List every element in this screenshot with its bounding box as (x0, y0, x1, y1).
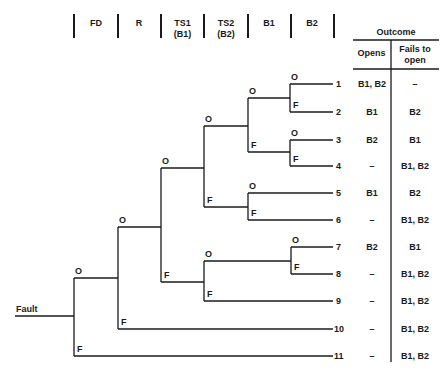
outcome-opens: B2 (350, 136, 394, 145)
outcome-number: 9 (336, 297, 341, 306)
branch-fail-label: F (207, 290, 213, 299)
branch-fail-label: F (293, 155, 299, 164)
outcome-fails: B1 (393, 136, 437, 145)
outcome-fails: B2 (393, 108, 437, 117)
outcome-opens: – (350, 325, 394, 334)
branch-open-label: O (119, 216, 126, 225)
branch-open-label: O (291, 73, 298, 82)
branch-fail-label: F (251, 209, 257, 218)
outcome-opens: B1 (350, 189, 394, 198)
outcome-number: 6 (336, 216, 341, 225)
initiating-event-label: Fault (16, 305, 38, 314)
outcome-fails: B1, B2 (393, 216, 437, 225)
outcome-number: 4 (336, 162, 341, 171)
outcome-fails: B1, B2 (393, 162, 437, 171)
branch-open-label: O (292, 236, 299, 245)
branch-open-label: O (162, 157, 169, 166)
outcome-opens: – (350, 162, 394, 171)
outcome-fails: B1 (393, 243, 437, 252)
branch-open-label: O (205, 115, 212, 124)
outcome-opens: – (350, 352, 394, 361)
outcome-opens: B1, B2 (350, 80, 394, 89)
outcome-number: 11 (334, 352, 344, 361)
outcome-fails: B2 (393, 189, 437, 198)
branch-fail-label: F (164, 271, 170, 280)
branch-open-label: O (249, 182, 256, 191)
outcome-fails: B1, B2 (393, 352, 437, 361)
outcome-fails: – (393, 80, 437, 89)
outcome-fails: B1, B2 (393, 325, 437, 334)
outcome-number: 5 (336, 189, 341, 198)
outcome-number: 1 (336, 80, 341, 89)
outcome-opens: B1 (350, 108, 394, 117)
outcome-number: 7 (336, 243, 341, 252)
branch-open-label: O (249, 87, 256, 96)
branch-fail-label: F (77, 345, 83, 354)
branch-fail-label: F (293, 101, 299, 110)
branch-fail-label: F (121, 318, 127, 327)
outcome-fails: B1, B2 (393, 297, 437, 306)
outcome-opens: B2 (350, 243, 394, 252)
outcome-opens: – (350, 216, 394, 225)
outcome-number: 3 (336, 136, 341, 145)
branch-open-label: O (75, 267, 82, 276)
event-tree-diagram: FD R TS1 (B1) TS2 (B2) B1 B2 Outcome Ope… (0, 0, 443, 377)
branch-fail-label: F (207, 196, 213, 205)
outcome-number: 10 (334, 325, 344, 334)
outcome-number: 8 (336, 270, 341, 279)
branch-open-label: O (205, 250, 212, 259)
branch-fail-label: F (294, 263, 300, 272)
outcome-number: 2 (336, 108, 341, 117)
outcome-fails: B1, B2 (393, 270, 437, 279)
branch-open-label: O (291, 129, 298, 138)
outcome-opens: – (350, 297, 394, 306)
branch-fail-label: F (251, 141, 257, 150)
outcome-opens: – (350, 270, 394, 279)
